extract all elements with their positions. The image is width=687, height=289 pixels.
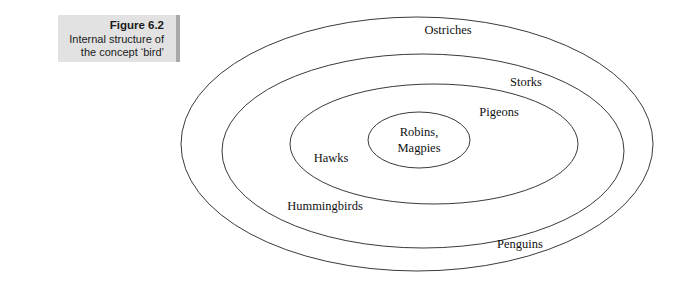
label-hawks: Hawks [314, 151, 349, 165]
label-robins: Robins, [400, 125, 439, 139]
figure-container: Figure 6.2 Internal structure of the con… [0, 0, 687, 289]
concept-structure-diagram: Ostriches Storks Pigeons Robins, Magpies… [0, 0, 687, 289]
label-hummingbirds: Hummingbirds [287, 199, 363, 213]
label-pigeons: Pigeons [479, 105, 519, 119]
label-penguins: Penguins [497, 237, 543, 251]
label-magpies: Magpies [397, 141, 440, 155]
label-ostriches: Ostriches [424, 23, 471, 37]
label-storks: Storks [510, 75, 542, 89]
